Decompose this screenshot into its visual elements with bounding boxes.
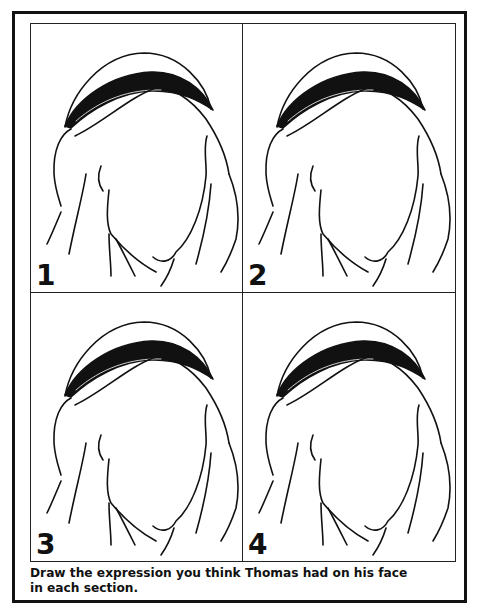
panel-4[interactable]: 4: [243, 293, 455, 561]
head-drawing-icon: [31, 293, 243, 561]
head-drawing-icon: [243, 293, 455, 561]
panel-1[interactable]: 1: [31, 24, 243, 293]
instructions-line-1: Draw the expression you think Thomas had…: [30, 566, 450, 581]
panel-number: 2: [248, 262, 266, 290]
instructions-line-2: in each section.: [30, 581, 450, 596]
panel-number: 4: [248, 531, 266, 559]
worksheet-frame: 1 2 3 4 Draw the expression you think Th…: [12, 11, 467, 603]
head-drawing-icon: [31, 24, 243, 293]
panel-grid: 1 2 3 4: [30, 23, 456, 562]
head-drawing-icon: [243, 24, 455, 293]
panel-3[interactable]: 3: [31, 293, 243, 561]
panel-number: 3: [36, 531, 54, 559]
instructions: Draw the expression you think Thomas had…: [30, 566, 450, 596]
panel-2[interactable]: 2: [243, 24, 455, 293]
panel-number: 1: [36, 262, 54, 290]
